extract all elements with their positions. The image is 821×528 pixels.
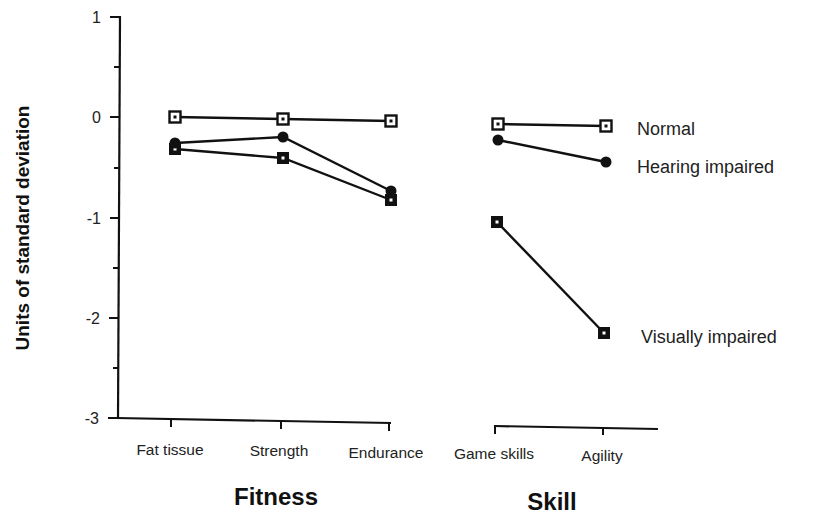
- x-tick-label-endurance: Endurance: [349, 444, 424, 461]
- x-tick-label-agility: Agility: [581, 447, 623, 464]
- filled-circle-marker-icon: [601, 157, 612, 168]
- filled-circle-marker-icon: [170, 138, 181, 149]
- x-tick-label-game-skills: Game skills: [454, 445, 534, 462]
- x-axis-skill: Game skills Agility: [454, 425, 658, 464]
- filled-square-marker-icon: [277, 152, 289, 164]
- y-tick-label: -1: [87, 210, 101, 227]
- filled-square-marker-icon: [491, 216, 503, 228]
- series-hearing-impaired: [170, 132, 612, 197]
- line-chart: 1 0 -1 -2 -3 Units of standard deviation…: [0, 0, 821, 528]
- legend-label-hearing-impaired: Hearing impaired: [637, 157, 774, 177]
- legend-label-visually-impaired: Visually impaired: [641, 327, 777, 347]
- open-square-marker-icon: [278, 114, 289, 125]
- y-axis-title: Units of standard deviation: [12, 106, 33, 351]
- group-label-skill: Skill: [527, 488, 576, 515]
- open-square-marker-icon: [601, 121, 612, 132]
- y-tick-label: 1: [92, 9, 101, 26]
- y-axis: 1 0 -1 -2 -3: [85, 9, 121, 427]
- filled-square-marker-icon: [598, 327, 610, 339]
- series-visually-impaired: [169, 143, 610, 339]
- filled-circle-marker-icon: [278, 132, 289, 143]
- y-tick-label: 0: [92, 109, 101, 126]
- legend-label-normal: Normal: [637, 119, 695, 139]
- y-tick-label: -3: [85, 410, 99, 427]
- open-square-marker-icon: [493, 119, 504, 130]
- open-square-marker-icon: [386, 116, 397, 127]
- open-square-marker-icon: [170, 112, 181, 123]
- y-tick-label: -2: [86, 310, 100, 327]
- x-axis-fitness: Fat tissue Strength Endurance: [116, 418, 423, 461]
- filled-circle-marker-icon: [386, 186, 397, 197]
- group-label-fitness: Fitness: [234, 483, 318, 510]
- x-tick-label-strength: Strength: [250, 442, 309, 459]
- x-tick-label-fat-tissue: Fat tissue: [136, 441, 203, 458]
- series-normal: [170, 112, 612, 132]
- filled-circle-marker-icon: [493, 135, 504, 146]
